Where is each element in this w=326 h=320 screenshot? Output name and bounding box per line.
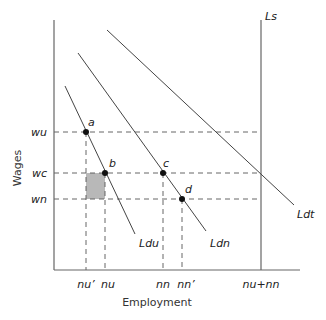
point-d (179, 196, 185, 202)
ldt-label: Ldt (297, 208, 315, 221)
point-b (102, 170, 108, 176)
point-a (83, 129, 89, 135)
x-axis-title: Employment (122, 296, 192, 309)
nu-prime-label: nu’ (77, 278, 95, 291)
point-c-label: c (163, 157, 169, 170)
nu-plus-nn-label: nu+nn (242, 278, 279, 291)
ldu-label: Ldu (139, 237, 159, 250)
nn-label: nn (156, 278, 170, 291)
wc-label: wc (32, 167, 47, 180)
nn-prime-label: nn’ (177, 278, 195, 291)
supply-label: Ls (265, 10, 277, 23)
demand-curve-ldu (65, 86, 135, 234)
wn-label: wn (31, 193, 47, 206)
wu-label: wu (31, 126, 47, 139)
demand-curve-ldn (78, 53, 206, 231)
point-a-label: a (88, 116, 95, 129)
shaded-area (86, 173, 105, 199)
point-c (160, 170, 166, 176)
labor-market-diagram: Ls Ldu Ldn Ldt a b c d wu wc wn nu’ nu n… (0, 0, 326, 320)
ldn-label: Ldn (210, 237, 230, 250)
demand-curve-ldt (107, 30, 294, 205)
nu-label: nu (101, 278, 115, 291)
y-axis-title: Wages (11, 150, 24, 187)
point-d-label: d (185, 183, 193, 196)
point-b-label: b (109, 157, 116, 170)
